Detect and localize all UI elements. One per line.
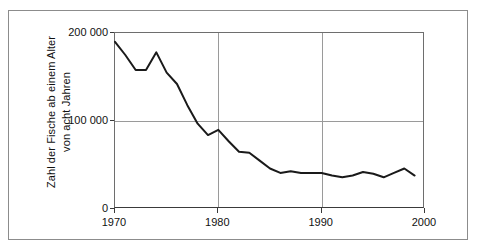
y-tick-label: 200 000 [38, 27, 108, 38]
y-axis-title-line-2: von acht Jahren [59, 72, 74, 152]
y-axis-title-line-1: Zahl der Fische ab einem Alter [44, 36, 59, 188]
y-tick-label: 100 000 [38, 115, 108, 126]
x-tick-label: 1970 [92, 217, 136, 228]
plot-area [114, 32, 424, 208]
series-line-chart [115, 33, 425, 209]
x-tick-label: 1990 [299, 217, 343, 228]
y-tick-label: 0 [38, 203, 108, 214]
figure-root: Zahl der Fische ab einem Alter von acht … [0, 0, 480, 252]
y-axis-title: Zahl der Fische ab einem Alter von acht … [42, 12, 76, 212]
series-polyline [115, 42, 415, 178]
x-tick-label: 2000 [402, 217, 446, 228]
x-tick-label: 1980 [195, 217, 239, 228]
